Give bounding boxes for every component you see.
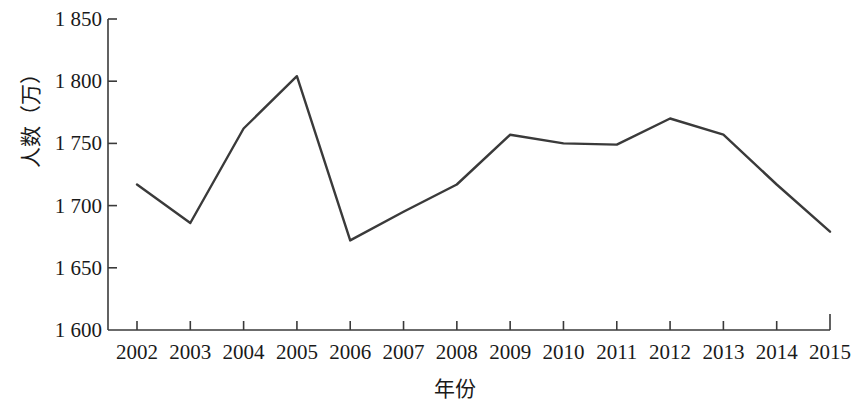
x-axis-tick-label: 2014 xyxy=(747,340,807,364)
x-axis-tick-label: 2002 xyxy=(107,340,167,364)
x-axis-tick-label: 2006 xyxy=(320,340,380,364)
x-axis-tick-label: 2010 xyxy=(533,340,593,364)
line-chart: 人数（万） 1 8501 8001 7501 7001 6501 600 200… xyxy=(0,0,851,406)
x-axis-tick-label: 2005 xyxy=(267,340,327,364)
x-axis-tick-label: 2003 xyxy=(160,340,220,364)
x-axis-tick-label: 2008 xyxy=(427,340,487,364)
data-series-line xyxy=(137,76,830,240)
x-axis-tick-label: 2007 xyxy=(374,340,434,364)
x-axis-tick-label: 2012 xyxy=(640,340,700,364)
x-axis-tick-label: 2011 xyxy=(587,340,647,364)
x-axis-tick-label: 2009 xyxy=(480,340,540,364)
x-axis-title: 年份 xyxy=(400,372,510,402)
x-axis-tick-label: 2004 xyxy=(214,340,274,364)
x-axis-tick-label: 2013 xyxy=(693,340,753,364)
x-axis-tick-label: 2015 xyxy=(800,340,851,364)
